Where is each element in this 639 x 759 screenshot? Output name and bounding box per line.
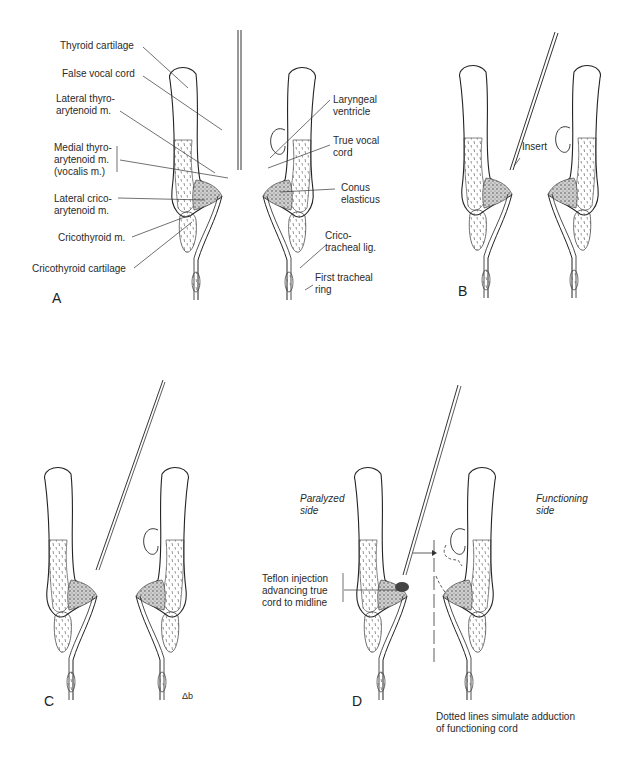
label-line: arytenoid m. [54,205,112,217]
label-line: Conus [341,182,380,194]
label-first-tracheal-ring: First tracheal ring [315,272,373,296]
label-line: ring [315,284,373,296]
label-functioning-side: Functioning side [536,493,588,517]
label-true-vocal-cord: True vocal cord [333,135,379,159]
caption-dotted-lines: Dotted lines simulate adduction of funct… [436,711,575,735]
panel-a-drawing [117,30,335,300]
label-line: elasticus [341,194,380,206]
label-lateral-thyroarytenoid: Lateral thyro- arytenoid m. [56,93,115,117]
label-line: Laryngeal [333,94,377,106]
label-line: arytenoid m. [54,154,112,166]
label-cricothyroid-cartilage: Cricothyroid cartilage [32,263,126,275]
label-medial-thyroarytenoid: Medial thyro- arytenoid m. (vocalis m.) [54,142,112,178]
label-line: advancing true [262,585,328,597]
label-insert: Insert [522,141,547,153]
label-laryngeal-ventricle: Laryngeal ventricle [333,94,377,118]
panel-d-drawing [343,385,495,700]
label-line: ventricle [333,106,377,118]
panel-b-drawing [460,32,601,298]
artist-signature: Δb [182,690,193,702]
label-thyroid-cartilage: Thyroid cartilage [60,40,134,52]
label-line: arytenoid m. [56,105,115,117]
label-line: cord [333,147,379,159]
panel-letter-d: D [352,693,362,709]
label-line: Lateral thyro- [56,93,115,105]
caption-line: of functioning cord [436,723,575,735]
label-line: First tracheal [315,272,373,284]
label-line: Crico- [325,230,376,242]
label-paralyzed-side: Paralyzed side [300,493,344,517]
label-cricotracheal-lig: Crico- tracheal lig. [325,230,376,254]
label-false-vocal-cord: False vocal cord [62,68,135,80]
label-lateral-cricoarytenoid: Lateral crico- arytenoid m. [54,193,112,217]
label-line: cord to midline [262,597,328,609]
label-line: tracheal lig. [325,242,376,254]
label-teflon-injection: Teflon injection advancing true cord to … [262,573,328,609]
panel-letter-b: B [458,283,467,299]
label-line: True vocal [333,135,379,147]
caption-line: Dotted lines simulate adduction [436,711,575,723]
panel-c-drawing [45,380,189,700]
label-cricothyroid-m: Cricothyroid m. [58,232,125,244]
label-line: Medial thyro- [54,142,112,154]
label-line: Teflon injection [262,573,328,585]
label-line: Lateral crico- [54,193,112,205]
label-line: Paralyzed [300,493,344,505]
label-line: Functioning [536,493,588,505]
label-line: (vocalis m.) [54,166,112,178]
panel-letter-c: C [44,693,54,709]
label-line: side [536,505,588,517]
label-line: side [300,505,344,517]
panel-letter-a: A [52,290,61,306]
label-conus-elasticus: Conus elasticus [341,182,380,206]
